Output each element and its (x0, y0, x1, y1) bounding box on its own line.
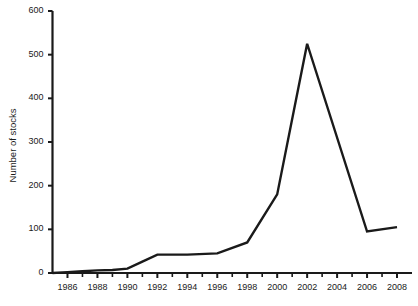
y-tick-label: 600 (0, 6, 44, 15)
y-tick-label: 100 (0, 224, 44, 233)
data-line (53, 44, 398, 273)
x-tick-label: 2008 (377, 283, 417, 292)
line-chart-plot (0, 0, 418, 306)
axis-lines (53, 11, 413, 273)
y-tick-label: 0 (0, 268, 44, 277)
y-tick-label: 200 (0, 181, 44, 190)
chart-container: Number of stocks 0100200300400500600 198… (0, 0, 418, 306)
y-tick-label: 300 (0, 137, 44, 146)
y-tick-label: 500 (0, 50, 44, 59)
axis-spine (53, 11, 413, 273)
y-tick-label: 400 (0, 93, 44, 102)
data-series-layer (53, 44, 398, 273)
